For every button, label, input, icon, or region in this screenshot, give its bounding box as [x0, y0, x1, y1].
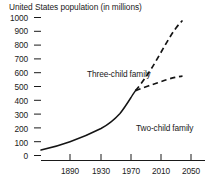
x-axis-ticks	[70, 154, 191, 160]
series-line-two-child-family	[136, 76, 183, 90]
y-axis-ticks	[34, 18, 41, 156]
chart-plot-area	[0, 0, 211, 180]
series-line-historical	[41, 91, 136, 150]
series-line-three-child-family	[136, 21, 183, 91]
population-projection-chart: United States population (in millions) 1…	[0, 0, 211, 180]
